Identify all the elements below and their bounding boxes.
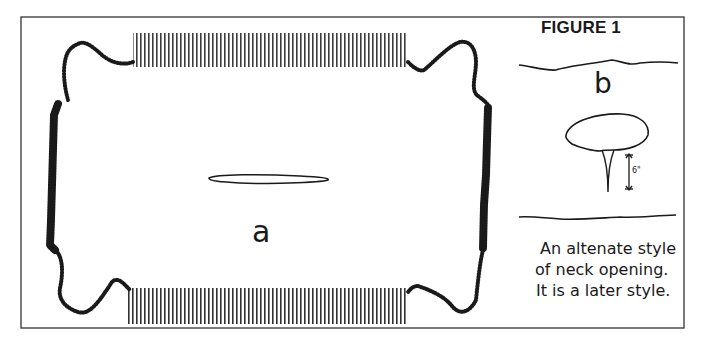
- caption-line: An altenate style: [533, 238, 693, 259]
- panel-a-label: a: [252, 214, 270, 249]
- panel-b-label: b: [594, 67, 612, 100]
- hide-edge-bottom: [519, 215, 676, 219]
- hide-outline: [50, 42, 490, 313]
- neck-slit: [209, 175, 328, 184]
- neck-opening-lens: [566, 114, 648, 151]
- top-fringe: [133, 33, 408, 67]
- figure-title: FIGURE 1: [541, 18, 621, 38]
- bottom-fringe: [128, 288, 408, 324]
- caption-line: of neck opening.: [533, 259, 693, 280]
- caption-line: It is a later style.: [533, 280, 693, 301]
- dimension-label: 6": [632, 166, 641, 175]
- figure-canvas: FIGURE 1 a b 6" An altenate style of nec…: [0, 0, 701, 344]
- panel-b-caption: An altenate style of neck opening. It is…: [533, 238, 693, 301]
- neck-opening-slit: [602, 150, 614, 192]
